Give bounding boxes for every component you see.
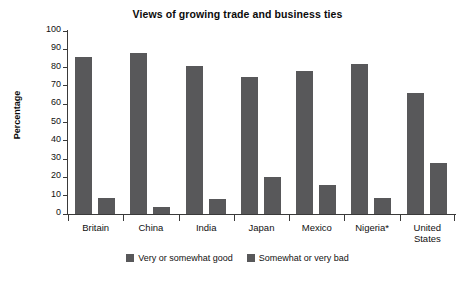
- bar-somewhat-or-very-bad: [209, 199, 226, 214]
- y-tick-label: 100: [31, 24, 61, 34]
- x-axis-category-label: India: [179, 222, 234, 233]
- plot-area: 1009080706050403020100: [68, 31, 455, 214]
- bar-very-or-somewhat-good: [186, 66, 203, 214]
- bar-group: [400, 31, 455, 214]
- x-axis-category-label: China: [123, 222, 178, 233]
- bar-somewhat-or-very-bad: [374, 198, 391, 214]
- bar-very-or-somewhat-good: [296, 71, 313, 214]
- x-tick-mark: [289, 214, 290, 221]
- bar-very-or-somewhat-good: [241, 77, 258, 214]
- y-tick-label: 10: [31, 189, 61, 199]
- bar-very-or-somewhat-good: [351, 64, 368, 214]
- chart-title: Views of growing trade and business ties: [0, 8, 475, 20]
- bar-group: [344, 31, 399, 214]
- chart-legend: Very or somewhat goodSomewhat or very ba…: [0, 253, 475, 263]
- bar-groups: [68, 31, 455, 214]
- x-axis-category-label: Mexico: [289, 222, 344, 233]
- x-tick-mark: [123, 214, 124, 221]
- bar-group: [289, 31, 344, 214]
- bar-group: [234, 31, 289, 214]
- legend-label: Somewhat or very bad: [259, 253, 349, 263]
- bar-very-or-somewhat-good: [130, 53, 147, 214]
- y-tick-label: 90: [31, 42, 61, 52]
- legend-label: Very or somewhat good: [138, 253, 233, 263]
- x-tick-mark: [179, 214, 180, 221]
- x-tick-mark: [454, 214, 455, 221]
- y-axis-label: Percentage: [12, 75, 22, 155]
- bar-chart: Views of growing trade and business ties…: [0, 0, 475, 286]
- bar-group: [123, 31, 178, 214]
- x-tick-mark: [68, 214, 69, 221]
- bar-somewhat-or-very-bad: [319, 185, 336, 214]
- bar-somewhat-or-very-bad: [430, 163, 447, 214]
- bar-very-or-somewhat-good: [407, 93, 424, 214]
- y-tick-label: 60: [31, 97, 61, 107]
- y-tick-label: 30: [31, 152, 61, 162]
- bar-somewhat-or-very-bad: [264, 177, 281, 214]
- y-tick-label: 50: [31, 116, 61, 126]
- x-axis-category-label: UnitedStates: [400, 222, 455, 244]
- x-tick-mark: [234, 214, 235, 221]
- x-axis-category-label: Britain: [68, 222, 123, 233]
- bar-somewhat-or-very-bad: [153, 207, 170, 214]
- y-tick-label: 0: [31, 207, 61, 217]
- bar-group: [68, 31, 123, 214]
- legend-item[interactable]: Somewhat or very bad: [247, 253, 349, 263]
- x-tick-mark: [400, 214, 401, 221]
- x-axis-category-label: Nigeria*: [344, 222, 399, 233]
- y-tick-label: 20: [31, 170, 61, 180]
- x-tick-mark: [344, 214, 345, 221]
- bar-group: [179, 31, 234, 214]
- x-axis-category-label: Japan: [234, 222, 289, 233]
- legend-item[interactable]: Very or somewhat good: [126, 253, 233, 263]
- y-tick-label: 40: [31, 134, 61, 144]
- legend-swatch-icon: [247, 254, 255, 262]
- legend-swatch-icon: [126, 254, 134, 262]
- y-tick-label: 70: [31, 79, 61, 89]
- bar-somewhat-or-very-bad: [98, 198, 115, 214]
- y-tick-label: 80: [31, 61, 61, 71]
- bar-very-or-somewhat-good: [75, 57, 92, 214]
